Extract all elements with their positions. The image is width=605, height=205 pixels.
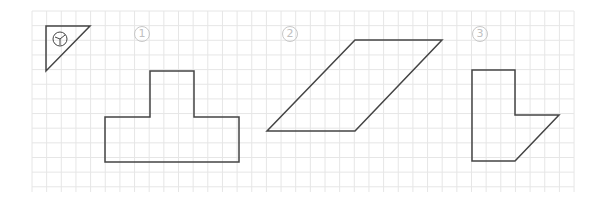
grid	[32, 11, 574, 192]
shape-3-label: 3	[472, 26, 488, 42]
shape-1-label: 1	[134, 26, 150, 42]
figure-canvas	[0, 0, 605, 205]
shape-2-label: 2	[282, 26, 298, 42]
triangle-ruler-icon	[46, 26, 90, 71]
